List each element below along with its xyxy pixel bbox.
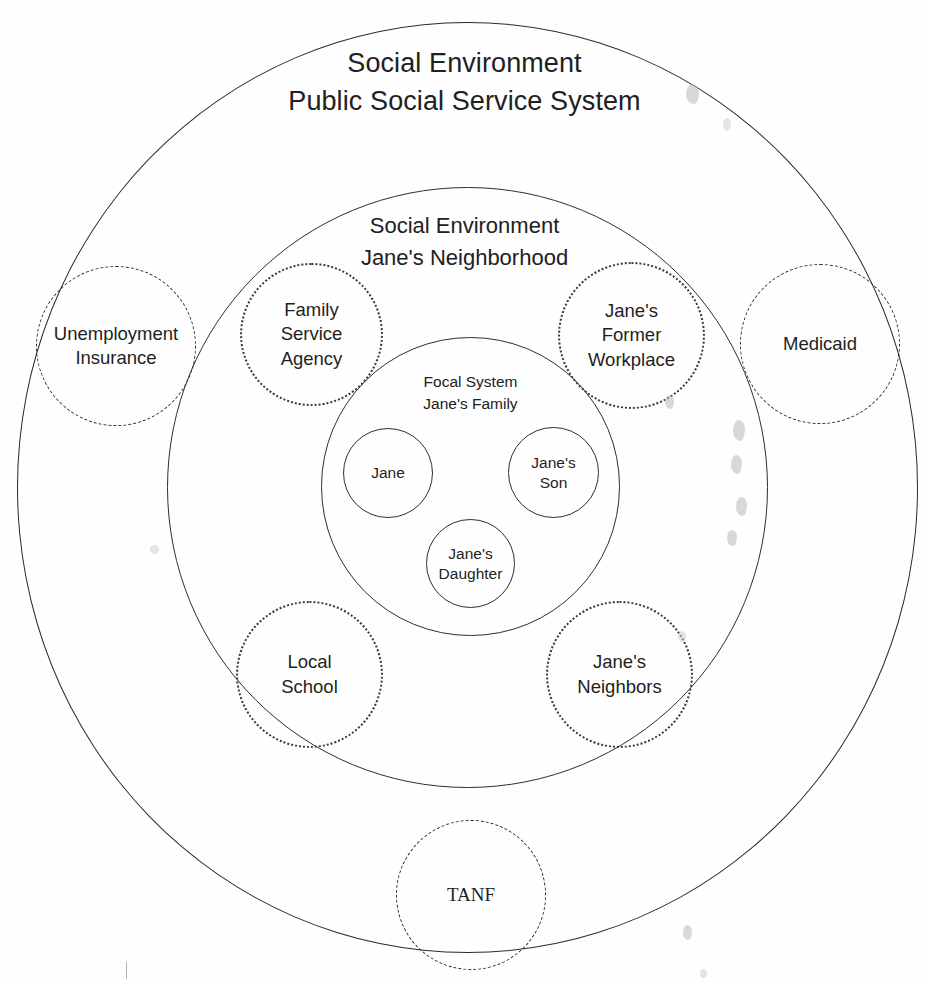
node-unemployment-insurance-label: Unemployment Insurance bbox=[21, 322, 211, 370]
member-jane: Jane bbox=[343, 428, 433, 518]
node-tanf-label: TANF bbox=[447, 883, 495, 908]
node-janes-neighbors: Jane's Neighbors bbox=[546, 601, 693, 748]
member-jane-label: Jane bbox=[371, 463, 405, 483]
node-tanf: TANF bbox=[396, 820, 546, 970]
member-janes-son: Jane's Son bbox=[508, 427, 599, 518]
member-janes-son-label: Jane's Son bbox=[531, 453, 575, 493]
middle-system-label: Social Environment Jane's Neighborhood bbox=[0, 210, 929, 274]
scan-smudge bbox=[686, 84, 699, 104]
scan-smudge bbox=[733, 420, 745, 441]
node-janes-former-workplace: Jane's Former Workplace bbox=[558, 262, 705, 409]
node-janes-former-workplace-label: Jane's Former Workplace bbox=[537, 299, 727, 371]
outer-system-label: Social Environment Public Social Service… bbox=[0, 44, 929, 121]
scan-smudge bbox=[665, 395, 674, 409]
scan-smudge bbox=[731, 455, 742, 474]
scan-speck bbox=[700, 969, 707, 978]
scan-speck bbox=[150, 545, 159, 554]
scan-smudge bbox=[736, 497, 747, 516]
node-medicaid-label: Medicaid bbox=[783, 332, 857, 356]
member-janes-daughter: Jane's Daughter bbox=[426, 519, 515, 608]
node-medicaid: Medicaid bbox=[740, 264, 900, 424]
node-local-school-label: Local School bbox=[281, 650, 338, 698]
page-edge-tick bbox=[126, 962, 127, 979]
scan-speck bbox=[678, 631, 686, 642]
scan-speck bbox=[723, 118, 731, 131]
node-janes-neighbors-label: Jane's Neighbors bbox=[525, 650, 715, 698]
scan-smudge bbox=[683, 925, 692, 940]
node-family-service-agency-label: Family Service Agency bbox=[281, 298, 343, 370]
member-janes-daughter-label: Jane's Daughter bbox=[439, 544, 503, 584]
node-family-service-agency: Family Service Agency bbox=[240, 263, 383, 406]
node-local-school: Local School bbox=[236, 601, 383, 748]
ecomap-diagram: Social Environment Public Social Service… bbox=[0, 0, 929, 983]
node-unemployment-insurance: Unemployment Insurance bbox=[36, 266, 196, 426]
scan-smudge bbox=[727, 530, 737, 546]
